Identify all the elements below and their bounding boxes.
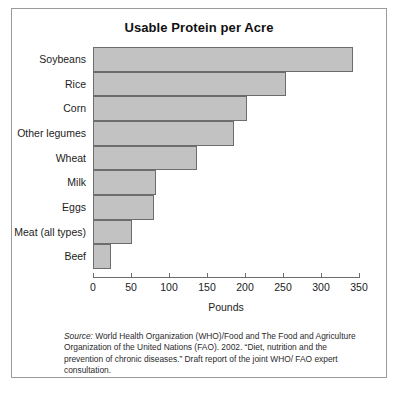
bar-corn[interactable] <box>93 96 247 121</box>
x-axis-title: Pounds <box>93 301 359 313</box>
bar-row: Milk <box>93 170 359 195</box>
source-label: Source: <box>64 331 93 341</box>
source-note: Source: World Health Organization (WHO)/… <box>64 331 364 377</box>
category-label-eggs: Eggs <box>62 195 86 220</box>
bar-eggs[interactable] <box>93 195 154 220</box>
bar-meat[interactable] <box>93 220 132 245</box>
x-tick-label: 200 <box>236 281 254 293</box>
x-tick-label: 50 <box>125 281 137 293</box>
x-tick <box>245 273 246 278</box>
x-tick <box>321 273 322 278</box>
x-axis: 050100150200250300350 <box>93 277 359 278</box>
category-label-soybeans: Soybeans <box>39 47 86 72</box>
x-tick-label: 150 <box>198 281 216 293</box>
category-label-meat: Meat (all types) <box>14 220 86 245</box>
chart-figure: Usable Protein per Acre Soybeans Rice Co… <box>11 8 387 378</box>
bar-row: Wheat <box>93 146 359 171</box>
plot-area: Soybeans Rice Corn Other legumes Wheat M… <box>93 47 359 269</box>
x-tick-label: 100 <box>160 281 178 293</box>
category-label-corn: Corn <box>63 96 86 121</box>
bar-row: Other legumes <box>93 121 359 146</box>
bar-soybeans[interactable] <box>93 47 353 72</box>
bar-row: Corn <box>93 96 359 121</box>
x-tick-label: 350 <box>350 281 368 293</box>
category-label-wheat: Wheat <box>56 146 86 171</box>
category-label-rice: Rice <box>65 72 86 97</box>
x-tick-label: 250 <box>274 281 292 293</box>
x-tick-label: 0 <box>90 281 96 293</box>
bar-rice[interactable] <box>93 72 286 97</box>
x-tick <box>93 273 94 278</box>
bar-row: Meat (all types) <box>93 220 359 245</box>
x-tick <box>131 273 132 278</box>
bar-row: Eggs <box>93 195 359 220</box>
x-tick-label: 300 <box>312 281 330 293</box>
chart-title: Usable Protein per Acre <box>12 20 386 35</box>
bar-row: Rice <box>93 72 359 97</box>
bar-row: Soybeans <box>93 47 359 72</box>
bar-beef[interactable] <box>93 244 111 269</box>
bar-milk[interactable] <box>93 170 156 195</box>
category-label-milk: Milk <box>67 170 86 195</box>
bar-other-legumes[interactable] <box>93 121 234 146</box>
category-label-other-legumes: Other legumes <box>17 121 86 146</box>
category-label-beef: Beef <box>64 244 86 269</box>
bar-row: Beef <box>93 244 359 269</box>
x-tick <box>207 273 208 278</box>
x-tick <box>283 273 284 278</box>
bar-wheat[interactable] <box>93 146 197 171</box>
x-tick <box>359 273 360 278</box>
x-tick <box>169 273 170 278</box>
source-text: World Health Organization (WHO)/Food and… <box>64 331 356 375</box>
